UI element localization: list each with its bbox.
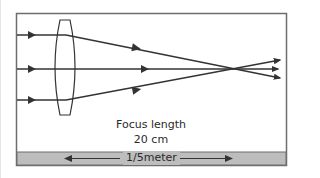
focus-length-value: 20 cm <box>91 133 211 146</box>
focus-length-label: Focus length <box>91 118 211 131</box>
scale-label: 1/5meter <box>123 151 180 165</box>
